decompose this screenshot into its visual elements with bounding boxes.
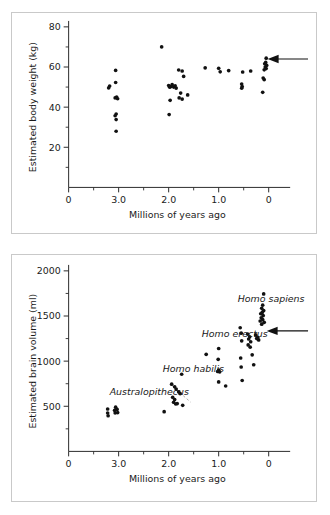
data-point	[262, 78, 266, 82]
body-weight-scatter-plot: 2040608003.02.01.00Millions of years ago…	[12, 13, 316, 233]
y-tick-label: 2000	[37, 265, 61, 276]
data-point	[114, 81, 118, 85]
data-point	[174, 86, 178, 90]
data-points	[107, 45, 269, 133]
data-point	[113, 96, 117, 100]
x-tick-label: 0	[266, 194, 272, 205]
data-point	[179, 91, 183, 95]
x-tick-label: 0	[66, 458, 72, 469]
arrow-head	[268, 55, 279, 63]
data-point	[186, 93, 190, 97]
species-label-homo-sapiens: Homo sapiens	[238, 293, 305, 304]
data-point	[175, 402, 179, 406]
data-point	[249, 340, 253, 344]
data-point	[177, 68, 181, 72]
data-point	[218, 70, 222, 74]
data-point	[114, 69, 118, 73]
arrow-head	[267, 327, 278, 335]
y-tick-label: 500	[43, 401, 61, 412]
x-axis-title: Millions of years ago	[129, 473, 226, 484]
y-tick-label: 1000	[37, 356, 61, 367]
y-tick-label: 40	[49, 102, 61, 113]
x-tick-label: 1.0	[211, 458, 226, 469]
x-tick-label: 1.0	[211, 194, 226, 205]
y-tick-label: 1500	[37, 310, 61, 321]
figure-container: 2040608003.02.01.00Millions of years ago…	[0, 0, 330, 515]
species-label-homo-habilis: Homo habilis	[163, 363, 224, 374]
data-point	[239, 365, 243, 369]
x-tick-label: 2.0	[161, 194, 176, 205]
data-point	[180, 97, 184, 101]
data-point	[260, 322, 264, 326]
x-axis-title: Millions of years ago	[129, 209, 226, 220]
chart-panel-body-weight: 2040608003.02.01.00Millions of years ago…	[11, 12, 317, 234]
plot-area: 50010001500200003.02.01.00Millions of ye…	[27, 265, 308, 484]
data-point	[258, 319, 262, 323]
y-tick-label: 20	[49, 142, 61, 153]
species-label-australopithecus: Australopithecus	[109, 386, 189, 397]
data-point	[250, 353, 254, 357]
data-point	[114, 129, 118, 133]
y-tick-label: 80	[49, 21, 61, 32]
species-label-homo-erectus: Homo erectus	[202, 328, 268, 339]
data-point	[264, 56, 268, 60]
data-point	[241, 70, 245, 74]
data-point	[240, 379, 244, 383]
y-axis-title: Estimated body weight (kg)	[27, 42, 38, 172]
brain-volume-scatter-plot: 50010001500200003.02.01.00Millions of ye…	[12, 255, 316, 501]
data-point	[240, 339, 244, 343]
data-point	[217, 380, 221, 384]
data-point	[160, 45, 164, 49]
data-point	[106, 414, 110, 418]
data-point	[216, 357, 220, 361]
data-point	[217, 347, 221, 351]
data-point	[114, 118, 118, 122]
y-axis-title: Estimated brain volume (ml)	[27, 294, 38, 429]
data-point	[113, 411, 117, 415]
data-point	[240, 86, 244, 90]
data-point	[170, 382, 174, 386]
data-point	[167, 113, 171, 117]
data-point	[261, 90, 265, 94]
x-tick-label: 3.0	[111, 194, 126, 205]
data-point	[239, 356, 243, 360]
x-tick-label: 3.0	[111, 458, 126, 469]
data-point	[227, 69, 231, 73]
plot-area: 2040608003.02.01.00Millions of years ago…	[27, 21, 308, 220]
data-point	[182, 75, 186, 79]
x-tick-label: 0	[66, 194, 72, 205]
chart-panel-brain-volume: 50010001500200003.02.01.00Millions of ye…	[11, 254, 317, 502]
data-point	[162, 410, 166, 414]
data-point	[204, 353, 208, 357]
data-point	[181, 404, 185, 408]
x-tick-label: 0	[266, 458, 272, 469]
data-point	[262, 68, 266, 72]
data-point	[252, 363, 256, 367]
data-point	[107, 86, 111, 90]
annotation-arrow	[268, 55, 308, 63]
x-tick-label: 2.0	[161, 458, 176, 469]
data-point	[249, 69, 253, 73]
data-point	[224, 384, 228, 388]
data-point	[203, 66, 207, 70]
annotation-arrow	[267, 327, 308, 335]
data-point	[248, 345, 252, 349]
data-point	[217, 66, 221, 70]
data-point	[106, 407, 110, 411]
axis-lines	[69, 21, 291, 187]
y-tick-label: 60	[49, 61, 61, 72]
data-point	[113, 114, 117, 118]
data-point	[180, 69, 184, 73]
data-point	[168, 98, 172, 102]
data-points	[106, 292, 266, 418]
